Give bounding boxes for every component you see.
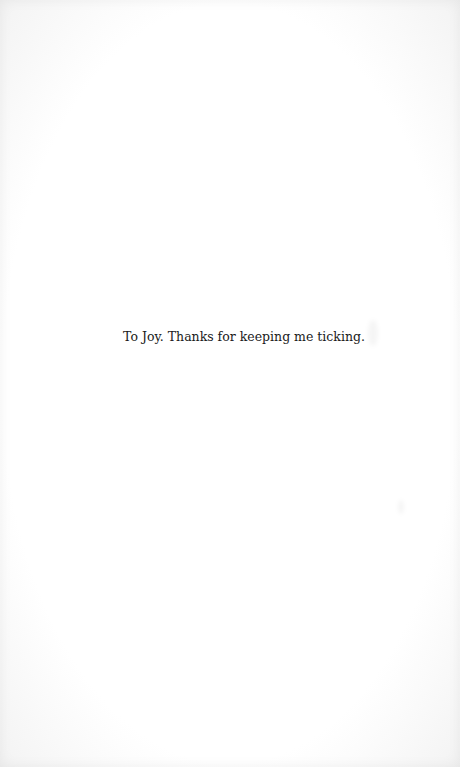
dedication-text: To Joy. Thanks for keeping me ticking.: [0, 329, 460, 344]
book-page: To Joy. Thanks for keeping me ticking.: [0, 0, 460, 767]
scan-smudge: [368, 320, 378, 346]
scan-smudge: [398, 500, 404, 514]
